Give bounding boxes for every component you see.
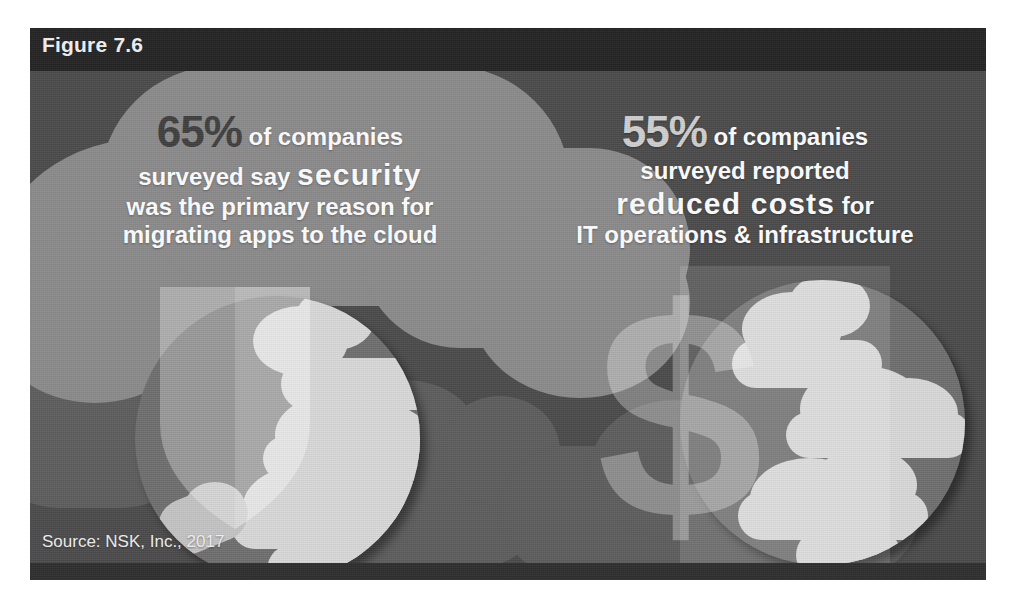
- stat-line-2-emphasis: security: [297, 158, 422, 191]
- infographic-stage: $ Figure 7.6 65% of companies surveyed s…: [0, 0, 1014, 606]
- bottom-band: [30, 563, 986, 580]
- header-band: [30, 28, 986, 71]
- stat-line-2: surveyed reported: [520, 157, 970, 185]
- source-attribution: Source: NSK, Inc., 2017: [42, 532, 224, 552]
- security-stat-text: 65% of companies surveyed say security w…: [70, 106, 490, 249]
- stat-line-1-rest: of companies: [242, 123, 403, 150]
- stat-percent: 65%: [157, 107, 242, 156]
- circle-cloud: [822, 520, 890, 565]
- stat-line-1: 65% of companies: [70, 106, 490, 157]
- circle-cloud: [185, 482, 245, 530]
- cost-stat-text: 55% of companies surveyed reported reduc…: [520, 106, 970, 249]
- stat-line-1: 55% of companies: [520, 106, 970, 157]
- stat-line-3-rest: for: [835, 192, 874, 219]
- stat-line-4: migrating apps to the cloud: [70, 221, 490, 249]
- stat-line-4: IT operations & infrastructure: [520, 221, 970, 249]
- stat-line-3: was the primary reason for: [70, 193, 490, 221]
- stat-line-3-emphasis: reduced costs: [616, 187, 835, 220]
- stat-line-2-plain: surveyed say: [138, 163, 297, 190]
- stat-line-2: surveyed say security: [70, 157, 490, 192]
- stat-line-1-rest: of companies: [707, 123, 868, 150]
- stat-percent: 55%: [622, 107, 707, 156]
- figure-label: Figure 7.6: [42, 33, 143, 57]
- infographic-panel: $ Figure 7.6 65% of companies surveyed s…: [30, 28, 986, 580]
- stat-line-3: reduced costs for: [520, 186, 970, 221]
- cost-circle-graphic: [680, 280, 965, 565]
